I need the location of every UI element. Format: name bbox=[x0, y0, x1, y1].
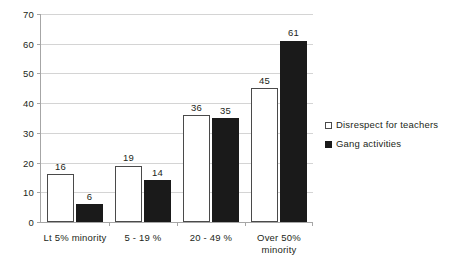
y-tick-label: 0 bbox=[0, 218, 34, 228]
gridline bbox=[41, 73, 313, 74]
x-tick-mark bbox=[312, 222, 313, 226]
filled-square-marker-icon bbox=[325, 141, 332, 148]
bar[interactable] bbox=[212, 118, 239, 222]
bar-value-label: 14 bbox=[138, 168, 177, 178]
bar-value-label: 35 bbox=[206, 106, 245, 116]
bar-chart: 010203040506070 166191436354561 Lt 5% mi… bbox=[0, 0, 464, 268]
plot-area: 166191436354561 bbox=[41, 14, 313, 222]
bar[interactable] bbox=[76, 204, 103, 222]
x-tick-label: 20 - 49 % bbox=[177, 232, 245, 244]
bar-value-label: 19 bbox=[109, 153, 148, 163]
y-tick-label: 30 bbox=[0, 129, 34, 139]
x-tick-label: Over 50%minority bbox=[245, 232, 313, 256]
x-tick-mark bbox=[109, 222, 110, 226]
bar[interactable] bbox=[183, 115, 210, 222]
y-tick-label: 20 bbox=[0, 159, 34, 169]
bar-value-label: 45 bbox=[245, 76, 284, 86]
bar-value-label: 61 bbox=[274, 28, 313, 38]
legend-item-gang-activities[interactable]: Gang activities bbox=[325, 139, 460, 149]
bar-value-label: 16 bbox=[41, 162, 80, 172]
chart-legend: Disrespect for teachers Gang activities bbox=[325, 120, 460, 158]
open-square-marker-icon bbox=[325, 122, 332, 129]
legend-item-label: Gang activities bbox=[336, 139, 401, 149]
bar-value-label: 6 bbox=[70, 192, 109, 202]
legend-item-label: Disrespect for teachers bbox=[336, 120, 438, 130]
x-tick-mark bbox=[177, 222, 178, 226]
gridline bbox=[41, 44, 313, 45]
legend-item-disrespect-for-teachers[interactable]: Disrespect for teachers bbox=[325, 120, 460, 130]
x-tick-label: 5 - 19 % bbox=[109, 232, 177, 244]
y-tick-label: 50 bbox=[0, 69, 34, 79]
y-tick-label: 10 bbox=[0, 188, 34, 198]
bar[interactable] bbox=[280, 41, 307, 222]
bar[interactable] bbox=[251, 88, 278, 222]
gridline bbox=[41, 14, 313, 15]
x-tick-mark bbox=[245, 222, 246, 226]
x-tick-label: Lt 5% minority bbox=[41, 232, 109, 244]
y-tick-label: 70 bbox=[0, 10, 34, 20]
y-tick-label: 40 bbox=[0, 99, 34, 109]
bar[interactable] bbox=[144, 180, 171, 222]
y-tick-label: 60 bbox=[0, 40, 34, 50]
